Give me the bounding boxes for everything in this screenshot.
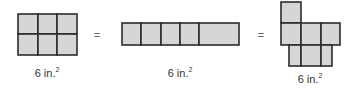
area-exponent: 2 bbox=[318, 72, 322, 79]
equals-sign-1: = bbox=[94, 29, 100, 41]
figure-rectangle-strip bbox=[122, 23, 239, 45]
area-exponent: 2 bbox=[55, 66, 59, 73]
area-value: 6 in. bbox=[298, 73, 319, 85]
area-value: 6 in. bbox=[168, 67, 189, 79]
label-figure-2: 6 in.2 bbox=[168, 66, 193, 79]
equals-sign-2: = bbox=[258, 29, 264, 41]
figure-irregular-shape bbox=[281, 2, 340, 66]
figure-rectangle-2x3 bbox=[18, 14, 77, 55]
area-exponent: 2 bbox=[188, 66, 192, 73]
area-value: 6 in. bbox=[35, 67, 56, 79]
label-figure-3: 6 in.2 bbox=[298, 72, 323, 85]
label-figure-1: 6 in.2 bbox=[35, 66, 60, 79]
